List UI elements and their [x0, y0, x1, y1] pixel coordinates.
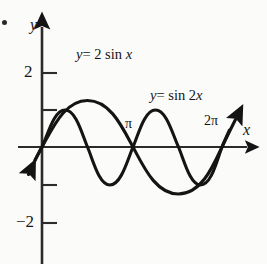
graph-canvas: [0, 0, 267, 264]
curve-label-2sinx-eq: = 2 sin: [82, 46, 125, 62]
x-axis-label: x: [243, 122, 250, 138]
curve-label-sin2x-x: x: [196, 87, 202, 103]
curve-label-sin2x-eq: = sin 2: [156, 87, 196, 103]
curve-label-sin2x: y= sin 2x: [150, 88, 202, 103]
curve-label-2sinx-x: x: [126, 46, 132, 62]
x-tick-label-pi: π: [125, 117, 132, 131]
x-tick-label-2pi: 2π: [204, 114, 218, 128]
y-axis-label: y: [30, 17, 37, 33]
y-tick-label-minus-2: −2: [16, 213, 34, 230]
math-graph-figure: y x 2 −2 π 2π y= 2 sin x y= sin 2x: [0, 0, 267, 264]
y-tick-label-2: 2: [24, 63, 33, 80]
curve-label-2sinx: y= 2 sin x: [76, 47, 132, 62]
